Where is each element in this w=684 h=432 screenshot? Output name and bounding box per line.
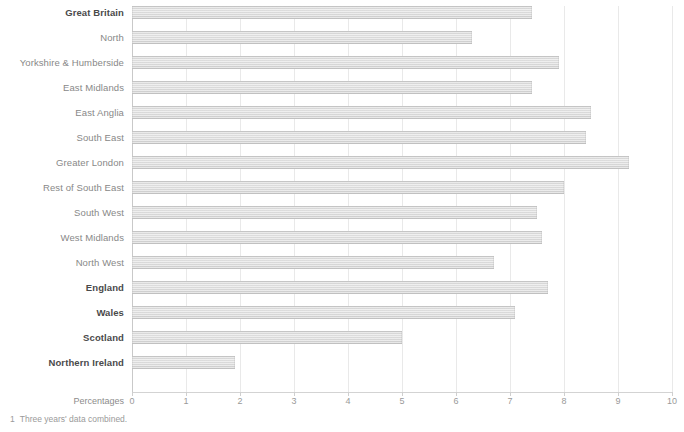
chart-row: Scotland: [0, 325, 684, 350]
category-label: Great Britain: [0, 0, 124, 25]
x-tick-label: 9: [603, 396, 633, 406]
bar: [132, 156, 629, 169]
chart-row: Yorkshire & Humberside: [0, 50, 684, 75]
category-label: South East: [0, 125, 124, 150]
footnote-number: 1: [10, 414, 15, 424]
category-label: West Midlands: [0, 225, 124, 250]
bar: [132, 106, 591, 119]
bar-chart: Great BritainNorthYorkshire & Humberside…: [0, 0, 684, 432]
chart-row: Northern Ireland: [0, 350, 684, 375]
bar: [132, 181, 564, 194]
bar: [132, 6, 532, 19]
category-label: North West: [0, 250, 124, 275]
x-tick-label: 8: [549, 396, 579, 406]
chart-footnote: 1Three years' data combined.: [10, 414, 127, 424]
chart-row: England: [0, 275, 684, 300]
category-label: South West: [0, 200, 124, 225]
chart-row: Greater London: [0, 150, 684, 175]
chart-row: South West: [0, 200, 684, 225]
chart-row: South East: [0, 125, 684, 150]
category-label: England: [0, 275, 124, 300]
x-tick-label: 5: [387, 396, 417, 406]
bar: [132, 306, 515, 319]
x-tick-label: 3: [279, 396, 309, 406]
category-label: Wales: [0, 300, 124, 325]
chart-row: Rest of South East: [0, 175, 684, 200]
bar: [132, 56, 559, 69]
category-label: Yorkshire & Humberside: [0, 50, 124, 75]
bar: [132, 131, 586, 144]
chart-rows: Great BritainNorthYorkshire & Humberside…: [0, 0, 684, 386]
footnote-text: Three years' data combined.: [20, 414, 127, 424]
x-tick-label: 1: [171, 396, 201, 406]
bar: [132, 331, 402, 344]
category-label: Rest of South East: [0, 175, 124, 200]
x-tick-label: 7: [495, 396, 525, 406]
x-tick-label: 2: [225, 396, 255, 406]
x-tick-label: 4: [333, 396, 363, 406]
category-label: Northern Ireland: [0, 350, 124, 375]
x-axis-title: Percentages: [0, 396, 124, 406]
bar: [132, 206, 537, 219]
bar: [132, 81, 532, 94]
chart-row: East Anglia: [0, 100, 684, 125]
category-label: North: [0, 25, 124, 50]
chart-row: Great Britain: [0, 0, 684, 25]
chart-row: North: [0, 25, 684, 50]
x-tick-label: 6: [441, 396, 471, 406]
chart-row: East Midlands: [0, 75, 684, 100]
category-label: East Anglia: [0, 100, 124, 125]
bar: [132, 231, 542, 244]
bar: [132, 31, 472, 44]
category-label: Greater London: [0, 150, 124, 175]
bar: [132, 281, 548, 294]
bar: [132, 256, 494, 269]
x-tick-label: 10: [657, 396, 684, 406]
category-label: Scotland: [0, 325, 124, 350]
chart-row: Wales: [0, 300, 684, 325]
bar: [132, 356, 235, 369]
chart-row: North West: [0, 250, 684, 275]
category-label: East Midlands: [0, 75, 124, 100]
chart-row: West Midlands: [0, 225, 684, 250]
